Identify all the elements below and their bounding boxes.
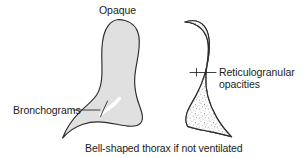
lung-diagram-svg: Opaque Bronchograms Reticulogranular opa… — [0, 0, 306, 158]
opaque-lung-silhouette — [63, 20, 143, 139]
diagram-canvas: Opaque Bronchograms Reticulogranular opa… — [0, 0, 306, 158]
label-reticulogranular-line2: opacities — [219, 78, 260, 90]
label-reticulogranular-line1: Reticulogranular — [219, 66, 295, 78]
label-bronchograms: Bronchograms — [13, 104, 81, 116]
opaque-lung-group — [63, 20, 143, 139]
label-opaque: Opaque — [99, 4, 136, 16]
label-caption-bell-shaped-thorax: Bell-shaped thorax if not ventilated — [85, 142, 243, 154]
